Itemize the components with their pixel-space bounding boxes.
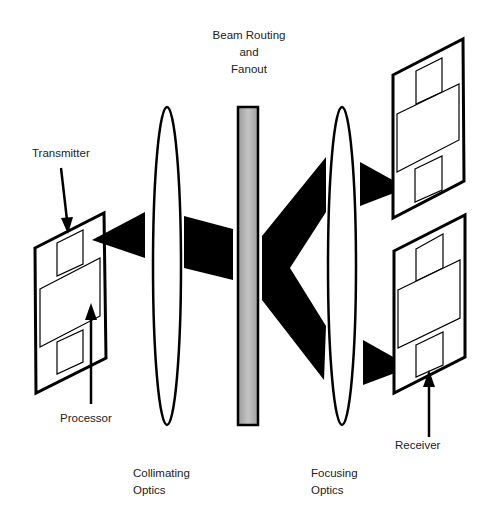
receiver-board-bottom (394, 215, 465, 393)
receiver-arrow (423, 370, 435, 437)
receiver-label: Receiver (395, 437, 440, 454)
receiver-board-top (393, 39, 464, 218)
focusing-label-line2: Optics (311, 482, 358, 499)
transmitter-arrow (61, 168, 73, 234)
collimating-optics-label: Collimating Optics (133, 465, 190, 499)
focusing-label-line1: Focusing (311, 465, 358, 482)
transmitter-label: Transmitter (32, 145, 90, 162)
beam-routing-element (238, 107, 258, 425)
collimated-beam (184, 216, 233, 280)
focusing-lens (328, 107, 356, 425)
collimating-label-line2: Optics (133, 482, 190, 499)
focusing-optics-label: Focusing Optics (311, 465, 358, 499)
fanout-beams (262, 157, 326, 380)
processor-label: Processor (60, 410, 112, 427)
collimating-label-line1: Collimating (133, 465, 190, 482)
beam-routing-label-line3: Fanout (211, 61, 287, 78)
beam-routing-label-line2: and (211, 44, 287, 61)
beam-routing-label: Beam Routing and Fanout (211, 27, 287, 78)
beam-routing-label-line1: Beam Routing (211, 27, 287, 44)
collimating-lens (153, 107, 181, 425)
